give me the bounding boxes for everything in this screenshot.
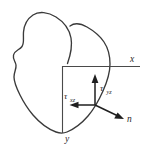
x-axis-label: x	[129, 54, 135, 64]
tau-xz-subscript: xz	[69, 97, 76, 103]
tau-xz-arrowhead-icon	[70, 102, 79, 108]
normal-vector-label: n	[127, 114, 132, 124]
tau-yz-vector	[92, 74, 99, 105]
cross-section-outline-icon	[13, 13, 110, 134]
y-axis-label: y	[64, 134, 70, 144]
tau-yz-subscript: yz	[106, 89, 113, 95]
figure-container: x y n τ yz τ xz	[0, 0, 149, 154]
tau-xz-symbol: τ	[64, 91, 68, 101]
normal-vector-arrowhead-icon	[114, 113, 124, 119]
normal-vector	[95, 105, 124, 119]
tau-yz-arrowhead-icon	[92, 74, 99, 83]
tau-xz-label: τ xz	[64, 91, 76, 103]
normal-vector-shaft	[95, 105, 117, 116]
shear-stress-diagram: x y n τ yz τ xz	[0, 0, 149, 154]
tau-xz-vector	[70, 102, 96, 108]
